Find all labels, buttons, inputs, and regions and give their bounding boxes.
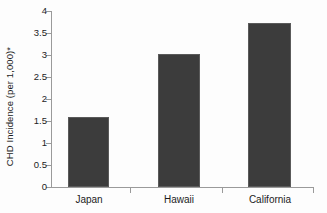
bar-california bbox=[248, 23, 291, 187]
x-tick-separator-2 bbox=[222, 188, 223, 193]
y-tick-label-3: 3 bbox=[7, 49, 47, 60]
x-axis-line bbox=[51, 187, 314, 188]
x-tick-separator-1 bbox=[130, 188, 131, 193]
y-tick-label-2-5: 2.5 bbox=[7, 71, 47, 82]
x-tick-separator-3 bbox=[313, 188, 314, 193]
y-axis-line bbox=[51, 11, 52, 188]
y-tick-label-0-5: 0.5 bbox=[7, 159, 47, 170]
y-tick-label-3-5: 3.5 bbox=[7, 27, 47, 38]
x-category-label-japan: Japan bbox=[58, 194, 120, 205]
chd-incidence-bar-chart: CHD Incidence (per 1,000)* 0 0.5 1 1.5 2… bbox=[0, 0, 327, 213]
y-tick-label-4: 4 bbox=[7, 5, 47, 16]
y-tick-label-1: 1 bbox=[7, 137, 47, 148]
y-tick-label-1-5: 1.5 bbox=[7, 115, 47, 126]
bar-japan bbox=[68, 117, 109, 187]
bar-hawaii bbox=[158, 54, 200, 187]
x-category-label-california: California bbox=[236, 194, 304, 205]
y-tick-label-0: 0 bbox=[7, 181, 47, 192]
y-tick-label-2: 2 bbox=[7, 93, 47, 104]
x-category-label-hawaii: Hawaii bbox=[148, 194, 210, 205]
